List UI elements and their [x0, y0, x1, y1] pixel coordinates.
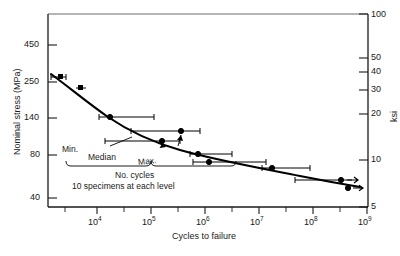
- x-tick-exp: 4: [98, 215, 102, 222]
- y2-tick-5: 5: [371, 201, 376, 211]
- y-tick-80: 80: [30, 149, 40, 159]
- y-tick-450: 450: [24, 39, 39, 49]
- x-tick-exp: 5: [152, 215, 156, 222]
- x-tick-base: 10: [142, 217, 152, 227]
- y2-tick-20: 20: [371, 108, 381, 118]
- x-tick-exp: 6: [206, 215, 210, 222]
- y2-tick-10: 10: [371, 154, 381, 164]
- x-tick-base: 10: [250, 217, 260, 227]
- x-tick-1e8: 108: [304, 215, 318, 227]
- x-axis-title: Cycles to failure: [172, 231, 236, 241]
- y-tick-40: 40: [30, 192, 40, 202]
- x-tick-1e7: 107: [250, 215, 264, 227]
- specimens-annotation: 10 specimens at each level: [72, 181, 175, 191]
- y-tick-250: 250: [24, 76, 39, 86]
- no-cycles-annotation: No. cycles: [115, 170, 154, 180]
- x-tick-exp: 8: [314, 215, 318, 222]
- y-axis-title: Nominal stress (MPa): [12, 68, 22, 155]
- y2-tick-30: 30: [371, 84, 381, 94]
- x-tick-base: 10: [196, 217, 206, 227]
- x-tick-1e6: 106: [196, 215, 210, 227]
- y2-tick-50: 50: [371, 52, 381, 62]
- median-annotation: Median: [88, 152, 116, 162]
- y-tick-140: 140: [24, 112, 39, 122]
- x-tick-exp: 7: [260, 215, 264, 222]
- x-tick-base: 10: [88, 217, 98, 227]
- x-tick-1e5: 105: [142, 215, 156, 227]
- y2-tick-100: 100: [371, 9, 386, 19]
- min-annotation: Min.: [62, 144, 78, 154]
- x-tick-exp: 9: [368, 215, 372, 222]
- x-tick-base: 10: [358, 217, 368, 227]
- x-tick-base: 10: [304, 217, 314, 227]
- x-tick-1e4: 104: [88, 215, 102, 227]
- y2-tick-40: 40: [371, 66, 381, 76]
- y2-axis-title: ksi: [389, 111, 399, 122]
- x-tick-1e9: 109: [358, 215, 372, 227]
- max-annotation: Max.: [138, 155, 157, 167]
